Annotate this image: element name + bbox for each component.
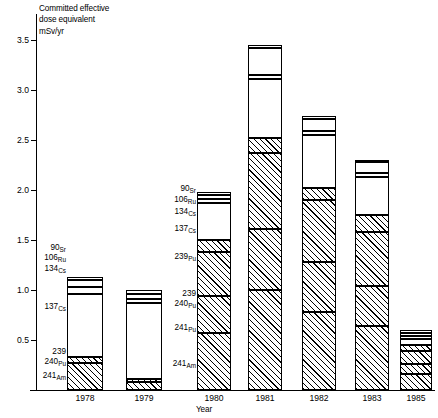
callout-1980-239Pu: 239Pu [175,252,197,261]
bar-segment-1979-106Ru [126,294,162,299]
y-axis-tick-label: 0.5 [5,336,29,345]
bar-segment-1978-134Cs [67,287,103,294]
y-axis-tick-label: 3.0 [5,86,29,95]
y-axis-tick [31,90,37,91]
bar-segment-1980-134Cs [197,199,231,203]
bar-segment-1978-106Ru [67,280,103,287]
bar-segment-1980-239Pu [197,240,231,252]
bar-segment-1978-239,240Pu [67,357,103,363]
callout-1980-106Ru: 106Ru [174,195,196,204]
callout-left-134Cs: 134Cs [45,264,66,273]
bar-1981[interactable] [248,0,282,390]
bar-1980[interactable] [197,0,231,390]
bar-segment-1979-137Cs [126,303,162,379]
bar-segment-1981-239,240Pu [248,153,282,229]
y-axis-tick [31,190,37,191]
callout-left-241Am: 241Am [43,371,66,380]
bar-segment-1985-137Cs [400,339,432,345]
callout-leader-line [53,259,67,260]
bar-segment-1982-241Am [302,312,336,390]
bar-segment-1980-106Ru [197,195,231,199]
callout-1980-239: 239 [182,289,196,298]
x-axis-tick-label-1985: 1985 [396,393,436,403]
callout-1980-137Cs: 137Cs [175,224,196,233]
bar-segment-1978-241Am [67,363,103,390]
bar-segment-1985-90Sr [400,330,432,333]
bar-segment-1980-241Am [197,333,231,390]
bar-segment-1982-90Sr [302,116,336,119]
bar-segment-1983-137Cs [355,177,389,215]
bar-segment-1983-241Pu [355,286,389,326]
y-axis-tick-label: 2.5 [5,136,29,145]
bar-segment-1985-106Ru [400,333,432,336]
x-axis-tick-label-1980: 1980 [194,393,234,403]
callout-left-90Sr: 90Sr [51,243,67,252]
y-axis-line [36,14,37,391]
bar-segment-1982-134Cs [302,131,336,135]
y-axis-tick-label: 1.5 [5,236,29,245]
callout-1980-241Am: 241Am [173,359,196,368]
bar-segment-1985-241Pu [400,364,432,374]
bar-segment-1985-239,240Pu [400,351,432,364]
x-axis-tick-label-1982: 1982 [299,393,339,403]
x-axis-tick-label-1978: 1978 [65,393,105,403]
bar-segment-1980-239,240Pu [197,252,231,296]
bar-segment-1985-134Cs [400,336,432,339]
callout-left-240Pu: 240Pu [45,357,67,366]
bar-1985[interactable] [400,0,432,390]
x-axis-line [30,390,435,391]
bar-segment-1983-239,240Pu [355,232,389,286]
callout-1980-90Sr: 90Sr [181,184,197,193]
bar-segment-1981-239Pu [248,138,282,153]
y-axis-tick-label: 1.0 [5,286,29,295]
y-axis-tick-labels: 0.51.01.52.02.53.03.5 [0,0,29,418]
bar-segment-1980-241Pu [197,296,231,333]
bar-1982[interactable] [302,0,336,390]
bar-segment-1980-137Cs [197,203,231,240]
bar-segment-1981-137Cs [248,79,282,138]
x-axis-tick-label-1981: 1981 [245,393,285,403]
bar-segment-1981-241Am [248,290,282,390]
bar-segment-1983-134Cs [355,173,389,177]
callout-leader-line [15,249,67,250]
bar-1983[interactable] [355,0,389,390]
callout-left-239: 239 [52,347,66,356]
y-axis-tick [31,140,37,141]
y-axis-tick [31,340,37,341]
bar-1979[interactable] [126,0,162,390]
bar-segment-1983-106Ru [355,162,389,173]
callout-1980-240Pu: 240Pu [175,299,197,308]
callout-leader-line [53,270,67,271]
callout-left-106Ru: 106Ru [44,253,66,262]
stacked-bar-chart: Committed effective dose equivalent mSv/… [0,0,438,418]
bar-segment-1982-239,240Pu [302,200,336,262]
y-axis-tick [31,240,37,241]
bar-segment-1979-241Am [126,382,162,390]
bar-segment-1982-241Pu [302,262,336,312]
bar-segment-1983-239Pu [355,215,389,232]
callout-left-137Cs: 137Cs [45,302,66,311]
bar-segment-1981-90Sr [248,45,282,48]
y-axis-tick-label: 3.5 [5,36,29,45]
bar-segment-1981-106Ru [248,48,282,75]
bar-segment-1979-239,240Pu [126,379,162,382]
x-axis-tick-label-1983: 1983 [352,393,392,403]
bar-segment-1982-106Ru [302,119,336,131]
bar-segment-1981-134Cs [248,75,282,79]
bar-segment-1983-90Sr [355,160,389,162]
callout-1980-134Cs: 134Cs [175,207,196,216]
bar-segment-1978-137Cs [67,294,103,357]
bar-segment-1985-239Pu [400,345,432,351]
callout-leader-line [55,377,67,378]
y-axis-tick [31,290,37,291]
bar-segment-1982-239Pu [302,188,336,200]
bar-segment-1985-241Am [400,374,432,390]
bar-segment-1980-90Sr [197,192,231,195]
bar-segment-1982-137Cs [302,135,336,188]
bar-segment-1981-241Pu [248,229,282,290]
bar-1978[interactable] [67,0,103,390]
y-axis-tick-label: 2.0 [5,186,29,195]
y-axis-tick [31,40,37,41]
bar-segment-1978-90Sr [67,277,103,280]
callout-1980-241Pu: 241Pu [175,323,197,332]
